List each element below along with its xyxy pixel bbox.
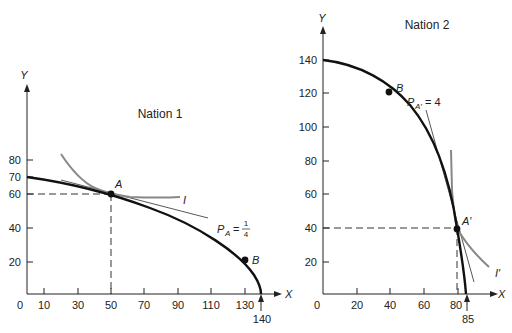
svg-text:A: A [224,229,230,238]
nation1-ytick: 20 [9,256,21,268]
nation2-point-b [386,89,393,96]
svg-text:1: 1 [244,219,249,228]
nation2-ytick: 120 [299,87,317,99]
nation2-label-b: B [396,82,403,94]
nation2-origin: 0 [314,299,320,311]
nation1-xtick: 30 [72,299,84,311]
nation2-ytick: 80 [305,155,317,167]
nation2-label-i-prime: I′ [495,267,501,279]
nation1-ytick: 60 [9,188,21,200]
svg-text:P: P [217,223,225,235]
nation1-label-i: I [183,194,186,206]
nation2-ytick: 140 [299,54,317,66]
nation2-ytick: 40 [305,222,317,234]
nation1-price-label: P A = 1 4 [217,219,250,239]
nation2-label-a-prime: A′ [461,215,472,227]
nation2-ytick: 60 [305,188,317,200]
nation2-xtick: 60 [418,299,430,311]
nation1-label-b: B [252,254,259,266]
nation2-panel: Nation 2 Y X 140 120 100 80 60 40 20 [299,12,506,325]
svg-text:P: P [407,96,415,108]
nation1-xtick: 110 [202,299,220,311]
nation1-title: Nation 1 [138,107,183,121]
nation1-xtick: 90 [172,299,184,311]
nation2-x-intercept: 85 [462,313,474,325]
nation1-xtick: 50 [105,299,117,311]
nation1-ytick: 70 [9,171,21,183]
nation2-y-label: Y [318,12,326,24]
nation1-y-ticks [27,160,33,262]
nation2-x-label: X [497,288,506,300]
nation1-x-intercept: 140 [253,313,271,325]
nation1-label-a: A [114,178,122,190]
nation1-origin: 0 [17,299,23,311]
nation2-xtick: 20 [351,299,363,311]
nation2-ytick: 100 [299,121,317,133]
nation1-point-b [242,257,249,264]
nation2-indifference-curve [451,150,489,267]
nation1-ytick: 40 [9,222,21,234]
nation1-x-label: X [284,288,293,300]
nation1-xtick: 70 [138,299,150,311]
svg-text:= 4: = 4 [425,96,441,108]
nation2-x-ticks [357,288,458,294]
nation1-indifference-curve [61,154,180,198]
svg-text:4: 4 [244,230,249,239]
nation1-x-ticks [44,288,245,294]
nation1-xtick: 130 [236,299,254,311]
nation2-xtick: 80 [450,299,462,311]
nation2-xtick: 40 [384,299,396,311]
nation2-point-a-prime [454,226,461,233]
nation1-point-a [108,191,115,198]
nation2-y-ticks [323,60,329,262]
nation1-y-label: Y [20,69,28,81]
nation1-xtick: 10 [38,299,50,311]
nation1-panel: Nation 1 Y X 80 70 60 40 20 0 10 [9,69,293,325]
svg-text:A′: A′ [414,102,422,111]
nation1-ytick: 80 [9,154,21,166]
svg-text:=: = [233,223,239,235]
nation2-title: Nation 2 [405,18,450,32]
nation2-ytick: 20 [305,256,317,268]
trade-diagram: Nation 1 Y X 80 70 60 40 20 0 10 [0,0,512,333]
